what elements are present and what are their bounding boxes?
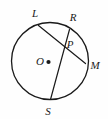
- figure-canvas: L R P M S O: [0, 0, 108, 119]
- point-label-s: S: [45, 105, 51, 117]
- point-label-l: L: [31, 7, 38, 19]
- point-label-p: P: [66, 38, 74, 50]
- center-point-dot: [46, 60, 50, 64]
- circle-geometry-figure: L R P M S O: [0, 0, 108, 119]
- point-label-r: R: [69, 11, 77, 23]
- point-label-o: O: [36, 55, 44, 67]
- point-label-m: M: [89, 59, 100, 71]
